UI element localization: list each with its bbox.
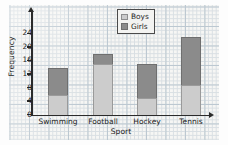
- legend-label-girls: Girls: [131, 22, 148, 32]
- bar-tennis-boys: [181, 85, 201, 116]
- y-tick-label-24: 24: [16, 29, 32, 37]
- y-tick-8: 8: [0, 84, 32, 92]
- y-tick-label-20: 20: [16, 43, 32, 51]
- bar-tennis-girls: [181, 37, 201, 84]
- chart-image: Frequency 0 4 8 12 16 20 24: [0, 0, 228, 145]
- bar-swimming-girls: [48, 68, 68, 95]
- y-tick-16: 16: [0, 56, 32, 64]
- legend-item-boys: Boys: [121, 12, 149, 22]
- legend-swatch-girls-icon: [121, 23, 128, 30]
- bar-hockey-boys: [137, 98, 157, 115]
- legend-swatch-boys-icon: [121, 14, 128, 21]
- bar-hockey: [137, 64, 157, 115]
- legend-label-boys: Boys: [131, 12, 149, 22]
- chart-legend: Boys Girls: [117, 9, 155, 34]
- bar-tennis: [181, 37, 201, 115]
- y-axis-arrow-icon: [28, 7, 34, 12]
- y-tick-label-16: 16: [16, 56, 32, 64]
- bar-swimming: [48, 68, 68, 115]
- y-tick-label-12: 12: [16, 70, 32, 78]
- bar-hockey-girls: [137, 64, 157, 98]
- y-tick-24: 24: [0, 29, 32, 37]
- y-tick-label-0: 0: [16, 111, 32, 119]
- bar-swimming-boys: [48, 95, 68, 115]
- y-tick-12: 12: [0, 70, 32, 78]
- y-tick-label-8: 8: [16, 84, 32, 92]
- stacked-bar-chart: Frequency 0 4 8 12 16 20 24: [0, 0, 228, 145]
- x-axis-title: Sport: [31, 127, 211, 136]
- y-tick-0: 0: [0, 111, 32, 119]
- bar-football: [93, 54, 113, 115]
- bar-football-boys: [93, 64, 113, 115]
- y-tick-4: 4: [0, 97, 32, 105]
- x-tick-label-tennis: Tennis: [164, 117, 218, 126]
- y-tick-label-4: 4: [16, 97, 32, 105]
- y-tick-20: 20: [0, 43, 32, 51]
- legend-item-girls: Girls: [121, 22, 149, 32]
- bar-football-girls: [93, 54, 113, 64]
